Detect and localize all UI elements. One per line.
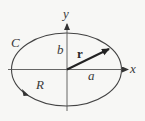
- vector-r-arrow: [67, 49, 109, 70]
- label-region-r: R: [35, 77, 44, 92]
- label-semi-major-a: a: [88, 68, 95, 83]
- label-curve-c: C: [11, 35, 20, 50]
- label-y-axis: y: [61, 6, 69, 21]
- label-semi-minor-b: b: [57, 42, 64, 57]
- label-vector-r: r: [77, 46, 83, 61]
- ellipse-diagram: C y x b a R r: [0, 0, 145, 121]
- label-x-axis: x: [129, 61, 136, 76]
- orientation-arrow-icon: [22, 89, 29, 96]
